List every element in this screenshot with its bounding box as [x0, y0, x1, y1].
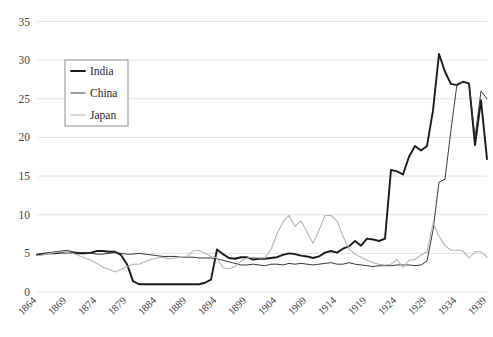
legend-label-china: China: [90, 87, 117, 99]
y-tick-label: 30: [19, 54, 31, 66]
chart-container: 05101520253035 1864186918741879188418891…: [0, 0, 493, 337]
x-tick-label: 1909: [286, 295, 309, 318]
legend-label-india: India: [90, 65, 114, 77]
x-axis-tick-labels: 1864186918741879188418891894189919041909…: [16, 294, 489, 317]
x-tick-label: 1894: [196, 294, 219, 317]
legend-label-japan: Japan: [90, 109, 116, 122]
x-tick-label: 1889: [166, 295, 189, 318]
y-tick-label: 25: [19, 93, 31, 105]
line-chart: 05101520253035 1864186918741879188418891…: [0, 0, 493, 337]
y-tick-label: 5: [24, 247, 30, 259]
y-axis-tick-labels: 05101520253035: [19, 16, 31, 299]
x-tick-label: 1914: [316, 294, 339, 317]
series-line-japan: [37, 215, 487, 271]
x-tick-label: 1939: [466, 295, 489, 318]
y-tick-label: 35: [19, 16, 31, 28]
x-tick-label: 1899: [226, 295, 249, 318]
y-tick-label: 15: [19, 170, 31, 182]
x-tick-label: 1864: [16, 294, 39, 317]
y-tick-label: 10: [19, 209, 31, 221]
x-tick-label: 1934: [436, 294, 459, 317]
x-tick-label: 1884: [136, 294, 159, 317]
x-tick-label: 1879: [106, 295, 129, 318]
x-tick-label: 1929: [406, 295, 429, 318]
x-tick-label: 1869: [46, 295, 69, 318]
chart-legend: IndiaChinaJapan: [65, 60, 128, 126]
y-tick-label: 20: [19, 131, 31, 143]
x-tick-label: 1924: [376, 294, 399, 317]
x-tick-label: 1904: [256, 294, 279, 317]
x-tick-label: 1919: [346, 295, 369, 318]
x-tick-label: 1874: [76, 294, 99, 317]
